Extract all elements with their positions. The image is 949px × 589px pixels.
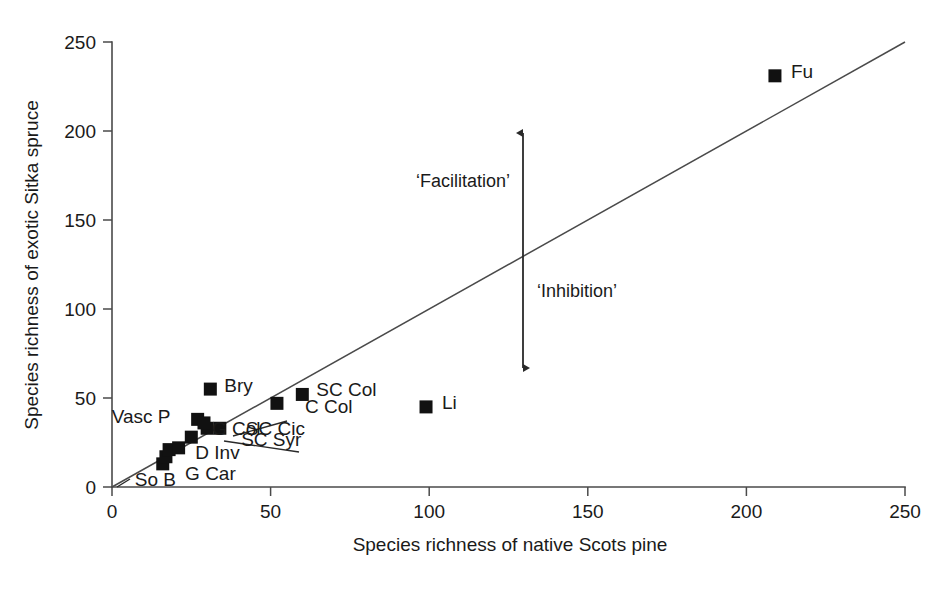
label-sob: So B — [135, 469, 176, 490]
x-tick-label: 200 — [731, 501, 763, 522]
y-tick-label: 50 — [75, 388, 96, 409]
data-point-marker — [204, 383, 217, 396]
data-point-marker — [270, 397, 283, 410]
y-tick-label: 100 — [64, 299, 96, 320]
point-labels-group: BryVasc PG ColSC ColC ColSC CicSC SyrD I… — [112, 61, 813, 490]
label-dinv: D Inv — [195, 442, 240, 463]
region-annotations-group: ‘Facilitation’ ‘Inhibition’ — [416, 171, 617, 301]
inhibition-label: ‘Inhibition’ — [537, 281, 617, 301]
data-point-marker — [768, 69, 781, 82]
y-tick-label: 250 — [64, 32, 96, 53]
facilitation-label: ‘Facilitation’ — [416, 171, 510, 191]
data-point-marker — [172, 441, 185, 454]
label-scsyr: SC Syr — [241, 429, 302, 450]
x-tick-label: 250 — [889, 501, 921, 522]
y-tick-label: 150 — [64, 210, 96, 231]
label-bry: Bry — [224, 375, 253, 396]
label-gcar: G Car — [185, 463, 236, 484]
plot-canvas: 050100150200250050100150200250 BryVasc P… — [0, 0, 949, 589]
x-tick-label: 50 — [260, 501, 281, 522]
data-point-marker — [197, 416, 210, 429]
label-fu: Fu — [791, 61, 813, 82]
label-li: Li — [442, 392, 457, 413]
scatter-plot-figure: 050100150200250050100150200250 BryVasc P… — [0, 0, 949, 589]
data-point-marker — [420, 400, 433, 413]
x-tick-label: 150 — [572, 501, 604, 522]
label-vascp: Vasc P — [112, 406, 171, 427]
x-tick-label: 100 — [413, 501, 445, 522]
y-tick-label: 0 — [85, 477, 96, 498]
y-tick-label: 200 — [64, 121, 96, 142]
x-tick-label: 0 — [107, 501, 118, 522]
y-axis-title: Species richness of exotic Sitka spruce — [21, 100, 42, 430]
x-axis-title: Species richness of native Scots pine — [353, 534, 668, 555]
label-ccol: C Col — [305, 396, 353, 417]
